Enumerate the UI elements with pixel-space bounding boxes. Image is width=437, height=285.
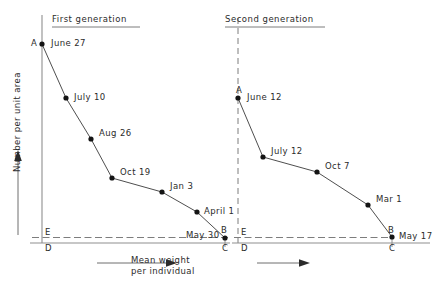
data-point — [235, 95, 240, 100]
point-label-june-12: June 12 — [247, 93, 282, 103]
panel2-data-points — [235, 95, 394, 239]
node-label-panel2-c: C — [389, 244, 395, 254]
data-point — [365, 202, 370, 207]
data-point — [109, 175, 114, 180]
data-point — [260, 154, 265, 159]
node-label-panel2-e: E — [241, 228, 247, 238]
data-point — [222, 235, 227, 240]
node-label-panel1-b: B — [221, 226, 227, 236]
point-label-oct-19: Oct 19 — [120, 168, 151, 178]
x-axis-label-line1: Mean weight — [131, 256, 190, 266]
node-label-panel2-d: D — [241, 244, 248, 254]
point-label-june-27: June 27 — [51, 39, 86, 49]
point-label-mar-1: Mar 1 — [376, 195, 402, 205]
data-point — [159, 189, 164, 194]
node-label-panel2-b: B — [388, 226, 394, 236]
node-label-panel2-a: A — [236, 86, 242, 96]
point-label-jan-3: Jan 3 — [170, 182, 193, 192]
panel2-data-line — [238, 98, 392, 237]
point-label-july-12: July 12 — [271, 147, 303, 157]
node-label-panel1-e: E — [45, 228, 51, 238]
node-label-panel1-a: A — [31, 39, 37, 49]
y-axis-label: Number per unit area — [13, 72, 23, 172]
point-label-may-17: May 17 — [399, 232, 433, 242]
node-label-panel1-c: C — [222, 244, 228, 254]
node-label-panel1-d: D — [45, 244, 52, 254]
data-point — [88, 136, 93, 141]
point-label-july-10: July 10 — [74, 93, 106, 103]
point-label-april-1: April 1 — [204, 207, 234, 217]
panel2-title: Second generation — [225, 15, 314, 25]
point-label-oct-7: Oct 7 — [325, 162, 350, 172]
panel1-data-line — [42, 44, 225, 238]
panel1-title: First generation — [52, 15, 127, 25]
data-point — [194, 209, 199, 214]
point-label-aug-26: Aug 26 — [99, 129, 132, 139]
data-point — [39, 41, 44, 46]
data-point — [314, 169, 319, 174]
data-point — [63, 95, 68, 100]
self-thinning-figure: First generation Second generation Numbe… — [0, 0, 437, 285]
x-axis-arrow-panel2 — [257, 259, 310, 267]
x-axis-label-line2: per individual — [131, 267, 195, 277]
panel1-data-points — [39, 41, 227, 240]
point-label-may-30: May 30 — [186, 231, 220, 241]
